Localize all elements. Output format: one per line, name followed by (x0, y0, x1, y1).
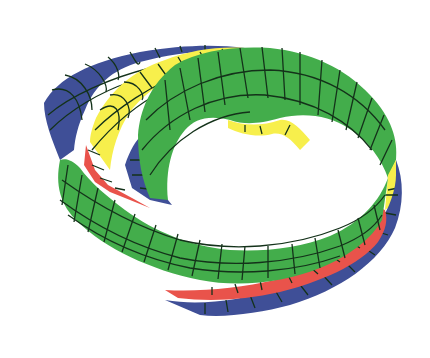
mobius-strip-figure (0, 0, 430, 358)
mobius-strip-illustration (0, 0, 430, 358)
